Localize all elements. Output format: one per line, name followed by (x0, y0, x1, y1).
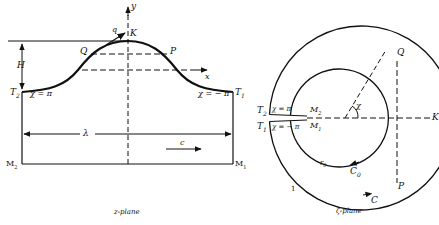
chi-pi-left: χ = π (30, 90, 52, 98)
point-t2-zeta: T2 (257, 106, 267, 117)
chi-minus-pi-lower: χ = − π (272, 124, 299, 131)
y-axis-label: y (131, 2, 136, 11)
point-q-zeta: Q (397, 48, 404, 57)
height-label: H (17, 61, 25, 70)
angle-chi-label: χ (356, 102, 361, 110)
z-plane-caption: z-plane (114, 209, 140, 216)
diagram-stage: y x q K Q P H T2 χ = π χ = − π T1 λ c M2… (0, 0, 439, 225)
point-q-z: Q (80, 47, 87, 56)
point-p-z: P (170, 47, 176, 56)
inner-radius-label: r0 (320, 160, 327, 168)
point-m1-zeta: M1 (310, 122, 321, 132)
point-m1-z: M1 (235, 160, 246, 170)
zeta-plane-caption: ζ-plane (336, 208, 362, 215)
point-t1-z: T1 (235, 88, 245, 99)
point-m2-z: M2 (6, 160, 17, 170)
point-t2-z: T2 (10, 88, 20, 99)
outer-circle-label: C (371, 196, 378, 205)
chi-pi-upper: χ = π (272, 106, 291, 113)
point-k-z: K (130, 29, 137, 38)
inner-circle-label: C0 (350, 167, 361, 178)
point-k-zeta: K (432, 113, 439, 122)
speed-label: q (112, 26, 117, 34)
point-m2-zeta: M2 (310, 106, 321, 116)
wavelength-label: λ (83, 129, 89, 138)
point-p-zeta: P (398, 182, 404, 191)
outer-radius-label: 1 (291, 186, 295, 193)
point-t1-zeta: T1 (257, 122, 267, 133)
x-axis-label: x (205, 73, 210, 81)
chi-minus-pi-right: χ = − π (198, 90, 229, 98)
zeta-plane-graphics (0, 0, 439, 225)
velocity-label: c (180, 139, 184, 147)
